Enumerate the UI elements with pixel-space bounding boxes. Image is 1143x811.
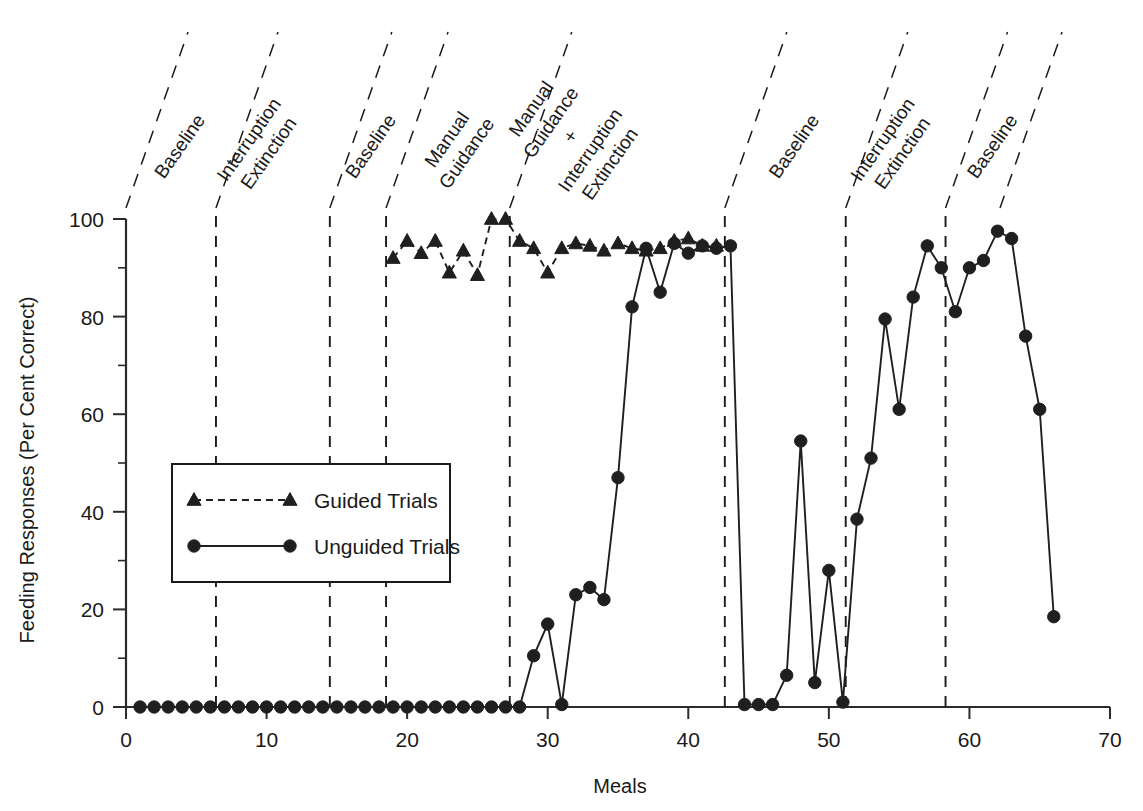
data-point-marker bbox=[499, 701, 511, 713]
data-point-marker bbox=[1019, 330, 1031, 342]
y-axis-title: Feeding Responses (Per Cent Correct) bbox=[16, 297, 38, 644]
x-axis-tick-label: 30 bbox=[536, 728, 559, 751]
data-point-marker bbox=[780, 669, 792, 681]
data-point-marker bbox=[317, 701, 329, 713]
data-point-marker bbox=[542, 618, 554, 630]
data-point-marker bbox=[949, 306, 961, 318]
data-point-marker bbox=[176, 701, 188, 713]
data-point-marker bbox=[991, 225, 1003, 237]
x-axis-title: Meals bbox=[593, 775, 646, 797]
data-point-marker bbox=[415, 701, 427, 713]
data-point-marker bbox=[556, 698, 568, 710]
data-point-marker bbox=[373, 701, 385, 713]
feeding-responses-chart: 010203040506070020406080100 BaselineInte… bbox=[0, 0, 1143, 811]
y-axis-tick-label: 0 bbox=[92, 696, 104, 719]
y-axis-tick-label: 20 bbox=[81, 598, 104, 621]
legend-group[interactable]: Guided TrialsUnguided Trials bbox=[172, 464, 460, 582]
x-axis-tick-label: 70 bbox=[1098, 728, 1121, 751]
y-axis-tick-label: 100 bbox=[69, 208, 104, 231]
x-axis-tick-label: 0 bbox=[120, 728, 132, 751]
data-point-marker bbox=[527, 650, 539, 662]
data-point-marker bbox=[345, 701, 357, 713]
legend-marker-circle-icon bbox=[284, 540, 296, 552]
legend-entry-label[interactable]: Guided Trials bbox=[314, 489, 438, 512]
x-axis-tick-label: 60 bbox=[958, 728, 981, 751]
x-axis-tick-label: 40 bbox=[677, 728, 700, 751]
data-point-marker bbox=[584, 581, 596, 593]
data-point-marker bbox=[387, 701, 399, 713]
data-point-marker bbox=[682, 247, 694, 259]
data-point-marker bbox=[331, 701, 343, 713]
data-point-marker bbox=[134, 701, 146, 713]
data-point-marker bbox=[921, 240, 933, 252]
data-point-marker bbox=[204, 701, 216, 713]
data-point-marker bbox=[190, 701, 202, 713]
data-point-marker bbox=[148, 701, 160, 713]
data-point-marker bbox=[752, 698, 764, 710]
data-point-marker bbox=[724, 240, 736, 252]
data-point-marker bbox=[274, 701, 286, 713]
data-point-marker bbox=[429, 701, 441, 713]
data-point-marker bbox=[612, 471, 624, 483]
data-point-marker bbox=[570, 589, 582, 601]
y-axis-tick-label: 60 bbox=[81, 403, 104, 426]
data-point-marker bbox=[837, 696, 849, 708]
data-point-marker bbox=[935, 262, 947, 274]
data-point-marker bbox=[401, 701, 413, 713]
x-axis-tick-label: 20 bbox=[395, 728, 418, 751]
data-point-marker bbox=[865, 452, 877, 464]
data-point-marker bbox=[1048, 611, 1060, 623]
data-point-marker bbox=[654, 286, 666, 298]
data-point-marker bbox=[162, 701, 174, 713]
data-point-marker bbox=[485, 701, 497, 713]
data-point-marker bbox=[1005, 232, 1017, 244]
y-axis-tick-label: 40 bbox=[81, 501, 104, 524]
data-point-marker bbox=[457, 701, 469, 713]
data-point-marker bbox=[260, 701, 272, 713]
data-point-marker bbox=[598, 593, 610, 605]
data-point-marker bbox=[303, 701, 315, 713]
data-point-marker bbox=[795, 435, 807, 447]
legend-marker-circle-icon bbox=[188, 540, 200, 552]
data-point-marker bbox=[443, 701, 455, 713]
data-point-marker bbox=[246, 701, 258, 713]
data-point-marker bbox=[977, 254, 989, 266]
legend-box bbox=[172, 464, 450, 582]
data-point-marker bbox=[218, 701, 230, 713]
data-point-marker bbox=[907, 291, 919, 303]
x-axis-tick-label: 10 bbox=[255, 728, 278, 751]
legend-entry-label[interactable]: Unguided Trials bbox=[314, 535, 460, 558]
data-point-marker bbox=[288, 701, 300, 713]
y-axis-tick-label: 80 bbox=[81, 306, 104, 329]
data-point-marker bbox=[893, 403, 905, 415]
data-point-marker bbox=[851, 513, 863, 525]
x-axis-tick-label: 50 bbox=[817, 728, 840, 751]
data-point-marker bbox=[513, 701, 525, 713]
data-point-marker bbox=[963, 262, 975, 274]
chart-background bbox=[0, 0, 1143, 811]
data-point-marker bbox=[471, 701, 483, 713]
data-point-marker bbox=[1034, 403, 1046, 415]
data-point-marker bbox=[738, 698, 750, 710]
data-point-marker bbox=[809, 676, 821, 688]
data-point-marker bbox=[359, 701, 371, 713]
data-point-marker bbox=[823, 564, 835, 576]
data-point-marker bbox=[879, 313, 891, 325]
data-point-marker bbox=[626, 301, 638, 313]
chart-figure: 010203040506070020406080100 BaselineInte… bbox=[0, 0, 1143, 811]
data-point-marker bbox=[232, 701, 244, 713]
data-point-marker bbox=[766, 698, 778, 710]
